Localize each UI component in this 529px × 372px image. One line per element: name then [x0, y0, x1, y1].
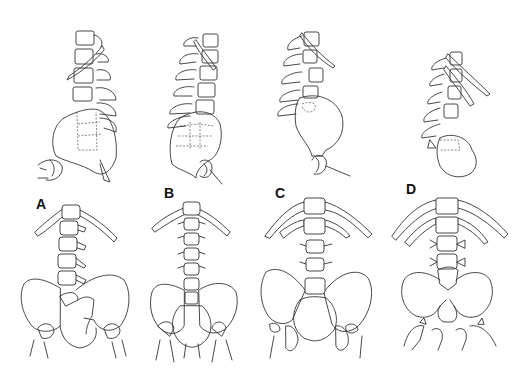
panel-d-frontal-view: [392, 198, 508, 350]
panel-label-a: A: [36, 196, 46, 212]
panel-label-c: C: [275, 185, 285, 201]
panel-c-lateral-view: [278, 32, 350, 176]
anatomical-figure: A B C D: [0, 0, 529, 372]
panel-b-frontal-view: [150, 202, 237, 362]
spine-pelvis-drawings: [0, 0, 529, 372]
panel-label-d: D: [406, 181, 416, 197]
panel-d-lateral-view: [422, 52, 490, 177]
panel-c-frontal-view: [261, 198, 372, 358]
panel-b-lateral-view: [168, 34, 222, 184]
panel-label-b: B: [164, 185, 174, 201]
panel-a-lateral-view: [38, 31, 116, 182]
panel-a-frontal-view: [21, 205, 129, 358]
